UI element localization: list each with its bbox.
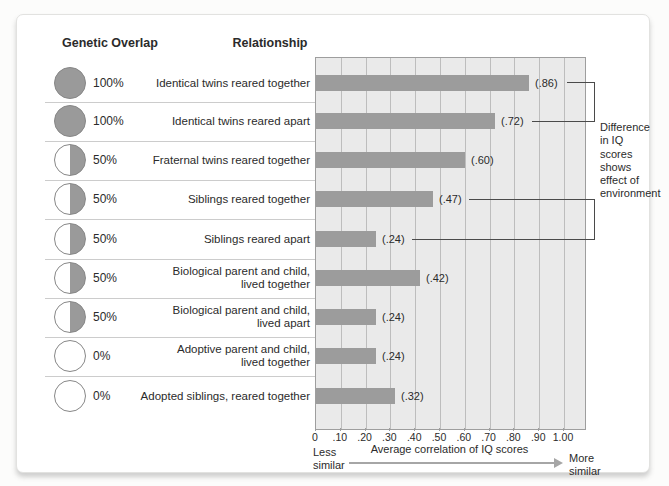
x-axis-tick-mark — [315, 428, 316, 431]
x-axis-tick-label: .80 — [506, 431, 521, 443]
correlation-value-label: (.47) — [439, 193, 462, 205]
genetic-overlap-circle — [54, 67, 86, 99]
x-axis-tick-mark — [439, 428, 440, 431]
relationship-label: Biological parent and child, lived toget… — [117, 265, 310, 291]
genetic-overlap-percent: 50% — [93, 232, 117, 246]
correlation-bar — [316, 113, 495, 129]
correlation-value-label: (.42) — [426, 272, 449, 284]
relationship-label: Identical twins reared together — [117, 77, 310, 90]
column-header-genetic-overlap: Genetic Overlap — [62, 36, 158, 50]
axis-left-label: Less similar — [313, 446, 345, 472]
genetic-overlap-circle — [54, 340, 86, 372]
row-separator — [45, 298, 315, 299]
relationship-label: Biological parent and child, lived apart — [117, 304, 310, 330]
genetic-overlap-percent: 0% — [93, 389, 110, 403]
genetic-overlap-circle — [54, 105, 86, 137]
genetic-overlap-circle — [54, 380, 86, 412]
correlation-value-label: (.24) — [382, 350, 405, 362]
row-separator — [45, 337, 315, 338]
x-axis-tick-label: .40 — [407, 431, 422, 443]
x-axis-tick-label: .30 — [382, 431, 397, 443]
gridline — [564, 58, 565, 429]
x-axis-tick-mark — [538, 428, 539, 431]
genetic-overlap-circle — [54, 262, 86, 294]
genetic-overlap-circle — [54, 144, 86, 176]
correlation-bar — [316, 231, 376, 247]
column-header-relationship: Relationship — [230, 36, 310, 50]
x-axis-tick-mark — [365, 428, 366, 431]
x-axis-tick-label: .20 — [357, 431, 372, 443]
x-axis-tick-label: .10 — [332, 431, 347, 443]
x-axis-tick-mark — [513, 428, 514, 431]
genetic-overlap-percent: 50% — [93, 271, 117, 285]
bracket-line — [469, 199, 594, 200]
relationship-label: Identical twins reared apart — [117, 115, 310, 128]
figure-card: Genetic Overlap Relationship 100% Identi… — [16, 14, 650, 473]
correlation-bar — [316, 348, 376, 364]
row-separator — [45, 219, 315, 220]
correlation-value-label: (.24) — [382, 311, 405, 323]
x-axis-tick-mark — [563, 428, 564, 431]
correlation-value-label: (.24) — [382, 233, 405, 245]
genetic-overlap-circle — [54, 301, 86, 333]
correlation-value-label: (.72) — [501, 115, 524, 127]
row-separator — [45, 376, 315, 377]
relationship-label: Siblings reared together — [117, 193, 310, 206]
correlation-bar — [316, 388, 395, 404]
axis-right-label: More similar — [569, 452, 601, 478]
figure-stage: Genetic Overlap Relationship 100% Identi… — [0, 0, 669, 486]
correlation-value-label: (.86) — [535, 77, 558, 89]
correlation-bar — [316, 75, 529, 91]
relationship-label: Siblings reared apart — [117, 233, 310, 246]
gridline — [539, 58, 540, 429]
x-axis-tick-mark — [389, 428, 390, 431]
x-axis-tick-label: 0 — [312, 431, 318, 443]
x-axis-caption: Average correlation of IQ scores — [315, 443, 584, 455]
correlation-value-label: (.60) — [471, 154, 494, 166]
x-axis-tick-mark — [489, 428, 490, 431]
x-axis-tick-label: 1.00 — [553, 431, 573, 443]
genetic-overlap-circle — [54, 223, 86, 255]
gridline — [514, 58, 515, 429]
similarity-arrow-head-icon — [554, 458, 563, 468]
genetic-overlap-circle — [54, 183, 86, 215]
x-axis-tick-mark — [340, 428, 341, 431]
correlation-bar — [316, 309, 376, 325]
x-axis-tick-mark — [414, 428, 415, 431]
relationship-label: Adopted siblings, reared together — [117, 390, 310, 403]
correlation-value-label: (.32) — [401, 390, 424, 402]
correlation-bar — [316, 152, 465, 168]
genetic-overlap-percent: 0% — [93, 349, 110, 363]
row-separator — [45, 180, 315, 181]
x-axis-tick-label: .90 — [531, 431, 546, 443]
row-separator — [45, 259, 315, 260]
row-separator — [45, 102, 315, 103]
relationship-label: Fraternal twins reared together — [117, 154, 310, 167]
environment-difference-annotation: Difference in IQ scores shows effect of … — [600, 121, 669, 201]
bracket-line — [532, 121, 594, 122]
genetic-overlap-percent: 50% — [93, 310, 117, 324]
x-axis-tick-label: .60 — [456, 431, 471, 443]
bracket-line — [594, 82, 595, 122]
bracket-line — [412, 239, 594, 240]
similarity-arrow-line — [349, 462, 554, 464]
x-axis-tick-mark — [464, 428, 465, 431]
row-separator — [45, 141, 315, 142]
correlation-bar — [316, 270, 420, 286]
relationship-label: Adoptive parent and child, lived togethe… — [117, 343, 310, 369]
bracket-line — [567, 82, 594, 83]
x-axis-tick-label: .70 — [481, 431, 496, 443]
x-axis-tick-label: .50 — [432, 431, 447, 443]
correlation-bar — [316, 191, 433, 207]
genetic-overlap-percent: 50% — [93, 192, 117, 206]
bracket-line — [594, 199, 595, 240]
genetic-overlap-percent: 50% — [93, 153, 117, 167]
